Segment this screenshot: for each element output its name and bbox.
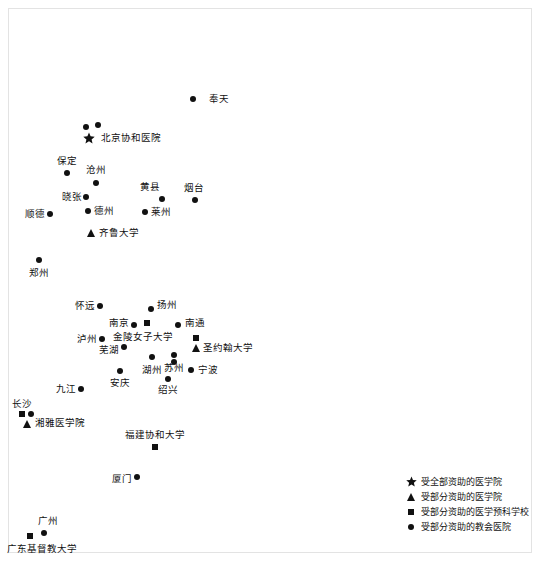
map-marker-circle — [64, 170, 70, 176]
map-marker-triangle — [192, 344, 200, 352]
map-marker-circle — [117, 368, 123, 374]
map-marker-circle — [93, 180, 99, 186]
map-point-label: 宁波 — [198, 365, 218, 375]
map-marker-square — [19, 411, 25, 417]
map-marker-circle — [85, 208, 91, 214]
legend-star-icon — [404, 476, 418, 487]
map-marker-circle — [36, 257, 42, 263]
map-marker-circle — [97, 303, 103, 309]
map-point-label: 扬州 — [157, 300, 177, 310]
map-point-label: 南通 — [185, 318, 205, 328]
legend-row: 受全部资助的医学院 — [404, 474, 530, 489]
map-point-label: 金陵女子大学 — [113, 332, 173, 342]
map-marker-circle — [134, 474, 140, 480]
map-marker-circle — [47, 211, 53, 217]
legend-circle-icon — [404, 524, 418, 530]
map-point-label: 长沙 — [12, 399, 32, 409]
map-point-label: 郑州 — [29, 268, 49, 278]
map-point-label: 湖州 — [142, 365, 162, 375]
map-point-label: 厦门 — [112, 474, 132, 484]
map-point-label: 怀远 — [75, 301, 95, 311]
map-marker-circle — [99, 336, 105, 342]
legend-label: 受部分资助的医学院 — [421, 490, 502, 503]
map-marker-triangle — [87, 229, 95, 237]
map-marker-circle — [78, 386, 84, 392]
map-figure: 奉天北京协和医院保定沧州黄县烟台晓张德州莱州顺德齐鲁大学郑州怀远扬州南京金陵女子… — [0, 0, 540, 570]
map-point-label: 芜湖 — [99, 345, 119, 355]
map-point-label: 保定 — [57, 156, 77, 166]
legend-row: 受部分资助的医学院 — [404, 489, 530, 504]
map-marker-circle — [142, 209, 148, 215]
map-marker-circle — [175, 322, 181, 328]
map-marker-circle — [149, 354, 155, 360]
legend-triangle-icon — [404, 493, 418, 501]
map-point-label: 安庆 — [110, 378, 130, 388]
map-point-label: 晓张 — [62, 192, 82, 202]
map-point-label: 沧州 — [86, 165, 106, 175]
map-point-label: 九江 — [56, 384, 76, 394]
map-marker-circle — [171, 352, 177, 358]
map-marker-circle — [131, 322, 137, 328]
map-marker-circle — [28, 411, 34, 417]
legend-row: 受部分资助的教会医院 — [404, 519, 530, 534]
map-point-label: 福建协和大学 — [125, 430, 185, 440]
map-point-label: 泸州 — [77, 334, 97, 344]
map-marker-square — [144, 320, 150, 326]
plot-frame: 奉天北京协和医院保定沧州黄县烟台晓张德州莱州顺德齐鲁大学郑州怀远扬州南京金陵女子… — [8, 8, 532, 553]
map-marker-square — [193, 335, 199, 341]
map-marker-circle — [83, 124, 89, 130]
legend-label: 受全部资助的医学院 — [421, 475, 502, 488]
map-marker-star — [83, 132, 95, 144]
map-marker-circle — [159, 196, 165, 202]
map-marker-circle — [83, 194, 89, 200]
map-marker-circle — [148, 306, 154, 312]
legend: 受全部资助的医学院受部分资助的医学院受部分资助的医学预科学校受部分资助的教会医院 — [404, 474, 530, 534]
map-point-label: 烟台 — [184, 183, 204, 193]
map-marker-square — [152, 444, 158, 450]
map-marker-circle — [95, 122, 101, 128]
map-point-label: 湘雅医学院 — [35, 418, 85, 428]
map-point-label: 齐鲁大学 — [99, 228, 139, 238]
map-marker-triangle — [23, 420, 31, 428]
map-marker-circle — [192, 197, 198, 203]
legend-square-icon — [404, 509, 418, 515]
legend-label: 受部分资助的医学预科学校 — [421, 505, 529, 518]
map-point-label: 莱州 — [151, 207, 171, 217]
map-marker-circle — [165, 376, 171, 382]
map-point-label: 南京 — [109, 318, 129, 328]
map-point-label: 广州 — [38, 516, 58, 526]
map-point-label: 绍兴 — [158, 385, 178, 395]
legend-row: 受部分资助的医学预科学校 — [404, 504, 530, 519]
map-marker-circle — [41, 530, 47, 536]
map-point-label: 广东基督教大学 — [7, 544, 77, 554]
map-marker-circle — [171, 359, 177, 365]
map-marker-square — [27, 533, 33, 539]
map-point-label: 顺德 — [25, 209, 45, 219]
map-marker-circle — [190, 96, 196, 102]
map-point-label: 北京协和医院 — [101, 133, 161, 143]
map-point-label: 黄县 — [140, 182, 160, 192]
map-marker-circle — [188, 367, 194, 373]
map-point-label: 奉天 — [209, 94, 229, 104]
legend-label: 受部分资助的教会医院 — [421, 520, 511, 533]
map-point-label: 德州 — [94, 206, 114, 216]
map-marker-circle — [121, 344, 127, 350]
map-point-label: 圣约翰大学 — [203, 343, 253, 353]
